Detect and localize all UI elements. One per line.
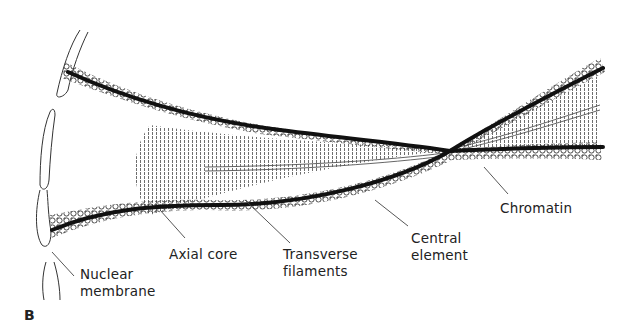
- label-transverse-filaments: Transverse filaments: [283, 246, 358, 280]
- label-nuclear-membrane-line2: membrane: [80, 283, 155, 300]
- label-nuclear-membrane: Nuclear membrane: [80, 266, 155, 300]
- panel-label: B: [24, 307, 35, 323]
- leader-axial-core: [160, 210, 185, 238]
- synaptonemal-complex-diagram: Nuclear membrane Axial core Transverse f…: [0, 0, 630, 326]
- label-chromatin: Chromatin: [500, 200, 572, 217]
- leader-central-element: [375, 200, 408, 226]
- label-central-element-line2: element: [411, 247, 468, 264]
- label-central-element: Central element: [411, 230, 468, 264]
- leader-nuclear-membrane: [52, 252, 74, 276]
- label-nuclear-membrane-line1: Nuclear: [80, 266, 155, 283]
- label-transverse-filaments-line2: filaments: [283, 263, 358, 280]
- label-central-element-line1: Central: [411, 230, 468, 247]
- leader-chromatin: [484, 167, 508, 194]
- label-transverse-filaments-line1: Transverse: [283, 246, 358, 263]
- label-axial-core: Axial core: [169, 246, 238, 263]
